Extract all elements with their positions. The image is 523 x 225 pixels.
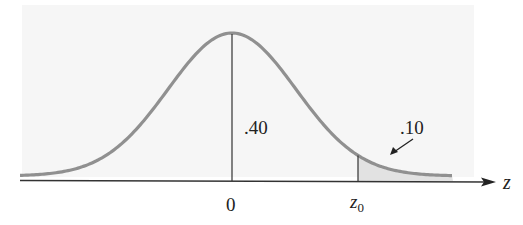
normal-curve-diagram: .40 .10 0 z0 z [0,0,523,225]
axis-label-z: z [502,171,511,193]
tick-label-z0: z0 [349,191,364,215]
background-panel [22,5,474,177]
center-area-label: .40 [244,117,268,138]
tick-label-zero: 0 [226,194,236,215]
diagram-canvas: .40 .10 0 z0 z [0,0,523,225]
tail-area-label: .10 [400,117,424,138]
